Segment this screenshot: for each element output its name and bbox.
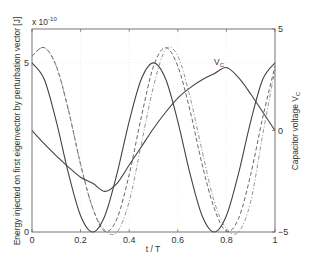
right-y-tick-label: 5 [278,24,283,34]
right-y-tick-label: −5 [278,227,288,237]
right-y-axis-label: Capacitor voltage VC [290,91,301,170]
x-tick-label: 1 [272,235,277,245]
x-tick-label: 0.8 [220,235,233,245]
x-tick-label: 0.6 [172,235,185,245]
y-multiplier: x 10-10 [32,16,57,27]
right-y-axis-ticks: −505 [272,24,288,237]
left-y-axis-ticks: 05 [24,58,29,237]
series-line [32,47,275,231]
x-axis-label: t / T [146,244,161,254]
vc-annotation: VC [214,57,225,68]
right-y-tick-label: 0 [278,126,283,136]
left-y-axis-label: Energy injected on first eigenvector by … [12,17,22,246]
data-curves [32,47,275,235]
series-line [32,47,275,235]
series-line [32,63,275,232]
left-y-tick-label: 5 [24,58,29,68]
x-tick-label: 0 [29,235,34,245]
grid-lines [32,29,275,232]
plot-frame [32,29,275,232]
chart-svg: 00.20.40.60.81 05 −505 x 10-10 t / T Ene… [0,0,312,264]
x-tick-label: 0.2 [74,235,87,245]
left-y-tick-label: 0 [24,227,29,237]
x-tick-label: 0.4 [123,235,136,245]
